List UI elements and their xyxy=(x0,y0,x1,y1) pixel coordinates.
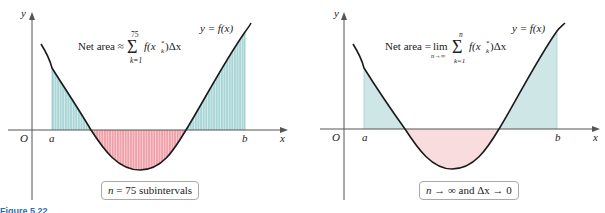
sigma-icon: Σ xyxy=(452,37,462,57)
limit-condition-box: n → ∞ and Δx → 0 xyxy=(419,181,519,200)
svg-text:Net area ≈: Net area ≈ xyxy=(78,40,124,52)
x-axis-label: x xyxy=(592,131,598,143)
riemann-formula: Net area ≈ 75 Σ k=1 f(x k * )Δx xyxy=(78,30,182,65)
svg-text:f(x: f(x xyxy=(144,40,156,53)
y-axis-label: y xyxy=(20,7,26,19)
curve-label: y = f(x) xyxy=(199,22,233,35)
figure-caption: Figure 5.22 xyxy=(0,206,48,213)
b-label: b xyxy=(555,131,561,143)
svg-text:n→∞: n→∞ xyxy=(431,52,446,59)
svg-text:f(x: f(x xyxy=(469,40,481,53)
origin-label: O xyxy=(20,132,28,144)
svg-text:Net area =: Net area = xyxy=(385,40,431,52)
svg-text:k=1: k=1 xyxy=(130,56,142,65)
y-axis-label: y xyxy=(333,7,339,19)
subintervals-text: = 75 subintervals xyxy=(114,184,193,196)
limit-condition-text: → ∞ and Δx → 0 xyxy=(432,184,512,196)
y-axis-arrow-icon xyxy=(341,12,347,20)
svg-text:k=1: k=1 xyxy=(454,57,465,65)
a-label: a xyxy=(49,132,55,144)
svg-text:lim: lim xyxy=(433,40,448,52)
origin-label: O xyxy=(332,131,340,143)
svg-text:)Δx: )Δx xyxy=(165,40,182,53)
svg-text:)Δx: )Δx xyxy=(490,40,507,53)
subintervals-box: n = 75 subintervals xyxy=(101,181,199,200)
panel-riemann-sum: y O a b x y = f(x) Net area ≈ 75 Σ k=1 f… xyxy=(8,7,288,200)
sigma-icon: Σ xyxy=(127,37,137,57)
panel-limit: y O a b x y = f(x) Net area = lim n→∞ n … xyxy=(320,7,600,200)
a-label: a xyxy=(362,131,368,143)
y-axis-arrow-icon xyxy=(29,12,35,20)
curve-label: y = f(x) xyxy=(511,22,545,35)
x-axis-label: x xyxy=(279,132,285,144)
b-label: b xyxy=(242,132,248,144)
limit-formula: Net area = lim n→∞ n Σ k=1 f(x k * )Δx xyxy=(385,30,507,65)
